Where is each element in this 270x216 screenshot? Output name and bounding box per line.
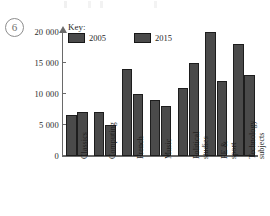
bar	[233, 44, 244, 155]
y-axis-tick-label: 0	[55, 151, 59, 161]
legend-swatch	[134, 33, 151, 43]
y-axis-tick-label: 20 000	[34, 27, 59, 37]
y-axis-tick-label: 15 000	[34, 58, 59, 68]
legend-label: 2005	[89, 33, 106, 43]
x-axis-category-label: French	[136, 136, 145, 159]
x-axis-category-label: Classics	[80, 132, 89, 159]
y-axis-tick-label: 10 000	[34, 89, 59, 99]
x-axis-category-label: Political studies	[192, 131, 210, 159]
bar	[66, 115, 77, 155]
x-axis-category-label: Computing	[108, 122, 117, 159]
bar	[178, 88, 189, 156]
bar-chart: 05 00010 00015 00020 000 ClassicsComputi…	[0, 0, 270, 216]
legend-label: 2015	[155, 33, 172, 43]
y-axis-tick-label: 5 000	[39, 120, 59, 130]
bar	[150, 100, 161, 156]
bar-series-group	[63, 32, 258, 156]
x-axis-category-label: Technology subjects	[248, 120, 266, 159]
bar	[94, 112, 105, 155]
legend-title: Key:	[68, 22, 86, 32]
legend-swatch	[68, 33, 85, 43]
x-axis-category-label: Music	[164, 139, 173, 160]
x-axis-category-label: PE & sport	[220, 141, 238, 159]
bar	[122, 69, 133, 155]
